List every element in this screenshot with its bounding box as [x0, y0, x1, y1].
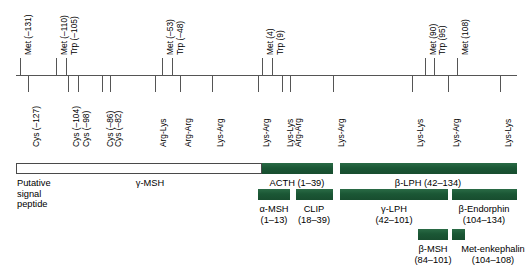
residue-tick — [500, 75, 501, 92]
domain-bar-acth — [262, 163, 333, 174]
residue-label: Lys-Arg — [262, 118, 271, 147]
residue-tick — [155, 75, 156, 92]
residue-tick — [212, 75, 213, 92]
residue-tick — [102, 75, 103, 92]
residue-label: Arg-Arg — [184, 118, 193, 147]
residue-label: Lys-Arg — [216, 118, 225, 147]
residue-label: Lys-Arg — [337, 118, 346, 147]
residue-label: Cys (–127) — [32, 106, 41, 147]
domain-bar-beta-msh — [418, 229, 448, 240]
residue-tick — [172, 58, 173, 75]
domain-bar-beta-endorphin — [452, 189, 517, 200]
sequence-axis — [16, 75, 517, 76]
figure-canvas: Met (–131)Met (–110)Trp (–105)Met (–53)T… — [0, 0, 532, 273]
residue-tick — [434, 58, 435, 75]
residue-tick — [448, 75, 449, 92]
domain-bar-beta-lph — [340, 163, 517, 174]
residue-label: Lys-Lys — [504, 119, 513, 147]
domain-bar-gamma-lph — [340, 189, 448, 200]
residue-tick — [272, 58, 273, 75]
residue-label: Met (108) — [461, 19, 470, 55]
domain-label-beta-endorphin: β-Endorphin (104–134) — [384, 204, 532, 225]
residue-tick — [282, 75, 283, 92]
domain-bar-signal-peptide — [16, 163, 262, 174]
residue-tick — [258, 75, 259, 92]
residue-tick — [457, 58, 458, 75]
residue-label: Met (–110) — [60, 15, 69, 55]
residue-tick — [412, 75, 413, 92]
domain-label-met-enkephalin: Met-enkephalin (104–108) — [393, 244, 532, 265]
residue-tick — [262, 58, 263, 75]
residue-tick — [425, 58, 426, 75]
residue-label: Arg-Arg — [294, 118, 303, 147]
residue-label: Met (–131) — [24, 15, 33, 56]
residue-label: Trp (9) — [276, 30, 285, 55]
residue-label: Met (–53) — [166, 19, 175, 55]
domain-bar-met-enkephalin — [452, 229, 465, 240]
residue-tick — [290, 75, 291, 92]
residue-label: Cys (–82) — [114, 111, 123, 147]
residue-tick — [68, 75, 69, 92]
residue-tick — [162, 58, 163, 75]
residue-label: Lys-Lys — [416, 119, 425, 147]
domain-bar-alpha-msh — [258, 189, 290, 200]
residue-tick — [20, 58, 21, 75]
residue-label: Lys-Arg — [452, 118, 461, 147]
residue-tick — [333, 75, 334, 92]
domain-bar-clip — [296, 189, 333, 200]
residue-tick — [28, 75, 29, 92]
residue-tick — [56, 58, 57, 75]
residue-tick — [180, 75, 181, 92]
residue-label: Trp (95) — [438, 26, 447, 55]
residue-label: Cys (–104) — [72, 106, 81, 147]
residue-label: Arg-Lys — [159, 118, 168, 147]
residue-tick — [78, 75, 79, 92]
residue-tick — [66, 58, 67, 75]
domain-label-beta-lph: β-LPH (42–134) — [328, 178, 528, 189]
residue-label: Cys (–98) — [82, 111, 91, 147]
residue-tick — [110, 75, 111, 92]
domain-label-signal-peptide: Putative signal peptide — [17, 178, 51, 210]
residue-label: Met (4) — [266, 28, 275, 55]
residue-label: Trp (–48) — [176, 21, 185, 55]
residue-label: Trp (–105) — [70, 16, 79, 55]
